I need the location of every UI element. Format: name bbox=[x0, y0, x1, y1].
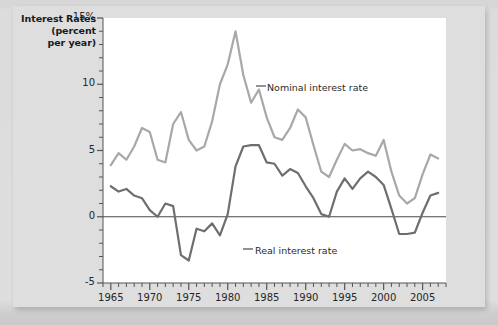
y-tick-label: 0 bbox=[49, 210, 95, 221]
y-tick-label: 10 bbox=[49, 77, 95, 88]
x-tick-label: 1985 bbox=[245, 292, 289, 303]
x-tick-label: 1975 bbox=[167, 292, 211, 303]
annotation-leader-lines bbox=[243, 86, 266, 249]
y-tick-label: 15% bbox=[49, 11, 95, 22]
real-series-label: Real interest rate bbox=[255, 245, 337, 256]
x-tick-label: 1980 bbox=[206, 292, 250, 303]
x-tick-label: 1995 bbox=[323, 292, 367, 303]
x-tick-label: 1965 bbox=[89, 292, 133, 303]
y-tick-label: -5 bbox=[49, 276, 95, 287]
x-tick-label: 2000 bbox=[362, 292, 406, 303]
nominal-series-label: Nominal interest rate bbox=[267, 82, 368, 93]
y-tick-label: 5 bbox=[49, 144, 95, 155]
x-tick-label: 2005 bbox=[401, 292, 445, 303]
chart-figure: Interest Rates (percent per year) 15%105… bbox=[0, 0, 498, 325]
x-tick-label: 1970 bbox=[128, 292, 172, 303]
data-series-group bbox=[111, 31, 438, 260]
series-line-nominal bbox=[111, 31, 438, 203]
x-tick-label: 1990 bbox=[284, 292, 328, 303]
